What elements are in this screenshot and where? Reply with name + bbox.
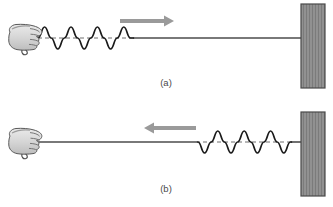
wall-block-a	[301, 4, 325, 88]
figure-background	[0, 0, 333, 207]
wave-reflection-figure: (a)	[0, 0, 333, 207]
wall-block-b	[301, 112, 325, 196]
figure-canvas: (a)	[0, 0, 333, 207]
panel-label-a: (a)	[160, 77, 172, 88]
wall-b	[301, 112, 325, 196]
panel-label-b: (b)	[160, 183, 172, 194]
wall-a	[301, 4, 325, 88]
